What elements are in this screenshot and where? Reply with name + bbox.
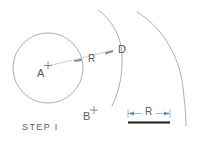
label-point-a: A (37, 68, 45, 79)
radius-dimension-line (48, 50, 114, 66)
label-radius-dimension: R (88, 54, 95, 64)
center-mark-B (90, 106, 98, 114)
figure-canvas: A B D R R STEP I (0, 0, 198, 144)
label-point-d: D (118, 44, 126, 55)
figure-caption: STEP I (22, 123, 59, 132)
inner-arc (98, 10, 122, 106)
label-scale-dimension: R (145, 107, 152, 117)
label-point-b: B (83, 111, 91, 122)
center-mark-A (44, 62, 52, 70)
